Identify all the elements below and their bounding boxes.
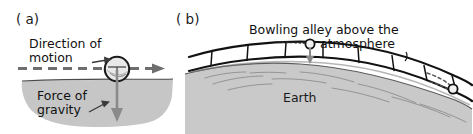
panel-b-bowling-ball-right — [448, 84, 457, 93]
panel-a-motion-arrowhead — [152, 64, 165, 74]
panel-b-label: ( b) — [176, 11, 199, 27]
force-of-gravity-label-line2: gravity — [37, 102, 82, 117]
figure-canvas: ( a) Direction of motion Force of gravit… — [0, 0, 473, 134]
alley-rung-2 — [247, 46, 248, 61]
force-of-gravity-label-line1: Force of — [37, 88, 87, 103]
panel-b-ball-path-dotted — [278, 42, 305, 43]
direction-of-motion-label-line1: Direction of — [29, 36, 102, 51]
alley-rung-3 — [285, 43, 286, 58]
direction-of-motion-label-line2: motion — [29, 50, 73, 65]
panel-b-bowling-ball-center — [305, 39, 314, 48]
panel-a-label: ( a) — [16, 11, 39, 27]
earth-label: Earth — [283, 90, 317, 105]
bowling-alley-label-line1: Bowling alley above the — [249, 22, 399, 37]
panel-a-group: ( a) Direction of motion Force of gravit… — [16, 11, 173, 127]
bowling-alley-label-line2: atmosphere — [320, 36, 395, 51]
panel-b-group: ( b) Bowling alley above the atmosphere … — [176, 11, 472, 134]
physics-figure: ( a) Direction of motion Force of gravit… — [0, 0, 473, 134]
alley-rung-1 — [211, 51, 212, 66]
